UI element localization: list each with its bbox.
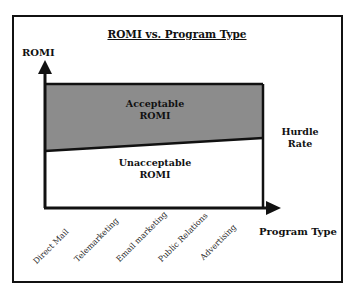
hurdle-line1: Hurdle	[268, 126, 332, 138]
unacceptable-line1: Unacceptable	[85, 157, 225, 169]
unacceptable-romi-label: Unacceptable ROMI	[85, 157, 225, 181]
acceptable-romi-label: Acceptable ROMI	[85, 98, 225, 122]
hurdle-rate-label: Hurdle Rate	[268, 126, 332, 150]
y-axis-arrow-icon	[38, 60, 52, 74]
chart-title: ROMI vs. Program Type	[0, 29, 354, 40]
y-axis-label: ROMI	[22, 48, 55, 58]
acceptable-line1: Acceptable	[85, 98, 225, 110]
acceptable-line2: ROMI	[85, 110, 225, 122]
x-axis-arrow-icon	[266, 201, 281, 215]
unacceptable-line2: ROMI	[85, 169, 225, 181]
x-axis-label: Program Type	[259, 227, 337, 237]
hurdle-line2: Rate	[268, 138, 332, 150]
